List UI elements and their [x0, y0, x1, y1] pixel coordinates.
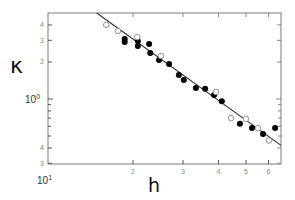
filled-data-point: [166, 61, 172, 67]
filled-data-point: [135, 43, 141, 49]
filled-data-point: [181, 77, 187, 83]
filled-data-point: [193, 85, 199, 91]
axis-labels: 101 100 h κ: [10, 53, 160, 196]
axis-ticks: 2345634234: [40, 13, 281, 175]
y-axis-title: κ: [10, 53, 23, 78]
open-data-point: [213, 89, 219, 95]
x-decade-label: 101: [37, 174, 52, 186]
open-data-point: [228, 115, 234, 121]
x-axis-title: h: [148, 174, 160, 196]
open-data-point: [266, 138, 272, 144]
filled-data-point: [249, 125, 255, 131]
filled-data-point: [260, 131, 266, 137]
y-tick-label: 3: [40, 37, 44, 44]
x-tick-label: 2: [131, 168, 135, 175]
y-tick-label: 3: [40, 160, 44, 167]
x-tick-label: 4: [216, 168, 220, 175]
data-points: [103, 22, 278, 143]
open-data-point: [134, 34, 140, 40]
x-tick-label: 6: [266, 168, 270, 175]
plot-frame: [48, 13, 281, 164]
filled-data-point: [176, 72, 182, 78]
y-tick-label: 2: [40, 58, 44, 65]
open-data-point: [243, 116, 249, 122]
filled-data-point: [272, 125, 278, 131]
plot-border: [48, 13, 281, 164]
open-data-point: [103, 22, 109, 28]
y-decade-label: 100: [25, 93, 40, 105]
x-tick-label: 3: [181, 168, 185, 175]
x-tick-label: 5: [244, 168, 248, 175]
chart-canvas: 2345634234 101 100 h κ: [0, 0, 295, 200]
open-data-point: [255, 125, 261, 131]
filled-data-point: [202, 86, 208, 92]
open-data-point: [115, 28, 121, 34]
filled-data-point: [147, 50, 153, 56]
y-tick-label: 4: [40, 144, 44, 151]
filled-data-point: [146, 41, 152, 47]
filled-data-point: [122, 39, 128, 45]
open-data-point: [158, 53, 164, 59]
filled-data-point: [237, 121, 243, 127]
y-tick-label: 4: [40, 21, 44, 28]
filled-data-point: [219, 98, 225, 104]
